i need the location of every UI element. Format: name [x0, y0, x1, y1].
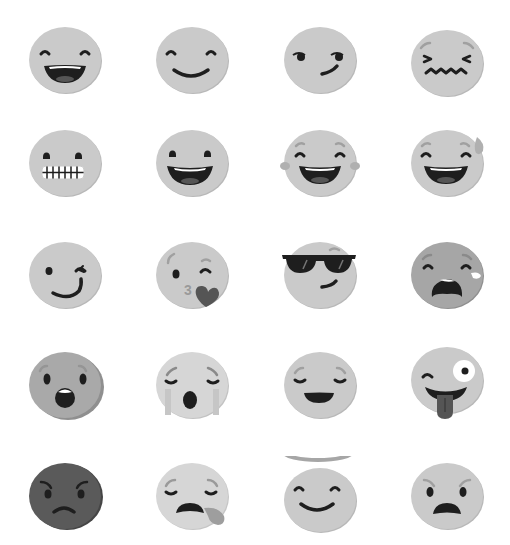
smirking-face-icon[interactable] — [280, 20, 360, 100]
weary-face-icon[interactable] — [152, 345, 232, 425]
grinning-face-with-smiling-eyes-icon[interactable] — [25, 20, 105, 100]
relieved-face-icon[interactable] — [280, 345, 360, 425]
winking-face-icon[interactable] — [25, 235, 105, 315]
face-blowing-a-kiss-icon[interactable]: 3 — [152, 235, 232, 315]
smiling-face-with-sunglasses-icon[interactable] — [280, 235, 360, 315]
face-with-tears-of-joy-icon[interactable] — [280, 123, 360, 203]
smiling-face-icon[interactable] — [152, 20, 232, 100]
smiling-face-with-halo-icon[interactable] — [280, 456, 360, 536]
face-with-open-mouth-icon[interactable] — [25, 345, 105, 425]
grinning-face-icon[interactable] — [152, 123, 232, 203]
grimacing-face-icon[interactable] — [25, 123, 105, 203]
grinning-face-with-sweat-icon[interactable] — [407, 123, 487, 203]
pouting-face-icon[interactable] — [25, 456, 105, 536]
kiss-lips: 3 — [184, 282, 192, 298]
loudly-crying-face-icon[interactable] — [407, 235, 487, 315]
winking-face-with-tongue-icon[interactable] — [407, 340, 487, 420]
confounded-face-icon[interactable] — [407, 23, 487, 103]
angry-face-icon[interactable] — [407, 456, 487, 536]
sleeping-face-icon[interactable] — [152, 456, 232, 536]
